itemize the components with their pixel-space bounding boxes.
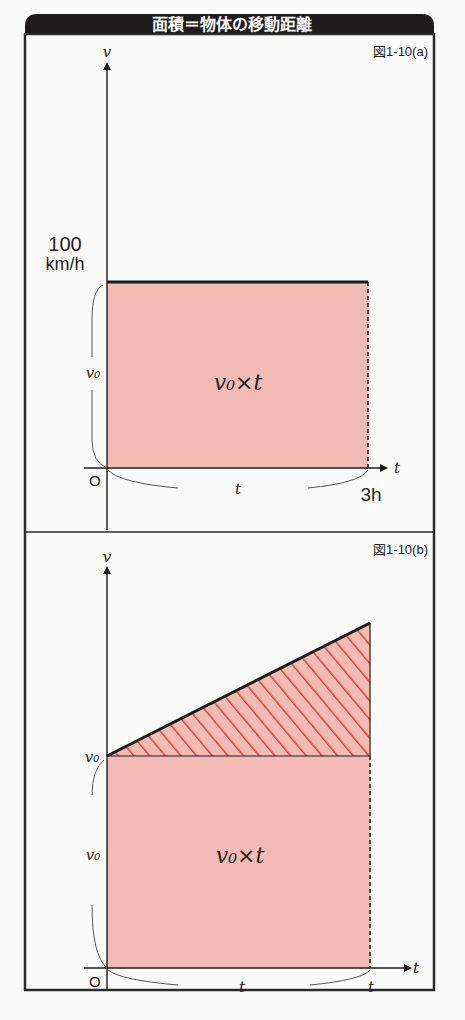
origin-label-b: O <box>89 973 101 990</box>
brace-y-label-a: v₀ <box>86 364 101 382</box>
figure-b-caption: 図1-10(b) <box>373 542 428 557</box>
x-end-label-b: t <box>368 978 375 996</box>
diagram-canvas: 面積＝物体の移動距離 図1-10(a) v t O 100 km/h v₀ v₀… <box>0 0 465 1020</box>
area-label-b: v₀×t <box>216 843 265 868</box>
v0-tick-label-b: v₀ <box>85 748 100 766</box>
x-axis-label-a: t <box>394 459 401 477</box>
brace-x-label-a: t <box>235 480 242 498</box>
x-axis-label-b: t <box>413 959 420 977</box>
value-label-unit: km/h <box>45 254 84 274</box>
header-title: 面積＝物体の移動距離 <box>152 15 312 34</box>
brace-y-label-b: v₀ <box>86 846 101 864</box>
origin-label-a: O <box>89 472 101 489</box>
figure-a-caption: 図1-10(a) <box>373 44 428 59</box>
brace-x-label-b: t <box>239 978 246 996</box>
y-axis-label-b: v <box>103 548 112 566</box>
figure-a: 図1-10(a) v t O 100 km/h v₀ v₀×t t 3h <box>45 43 428 530</box>
y-axis-label-a: v <box>103 43 112 61</box>
figure-b: 図1-10(b) v t O v₀ v₀ v₀×t t t <box>84 542 428 996</box>
value-label-100: 100 <box>48 233 81 255</box>
x-end-label-a: 3h <box>360 484 381 505</box>
brace-y-b <box>92 760 107 968</box>
area-label-a: v₀×t <box>214 370 263 395</box>
